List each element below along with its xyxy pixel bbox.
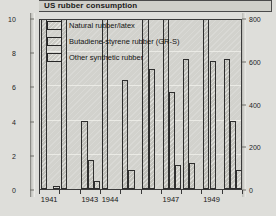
y-axis-right-tick-label: 0 — [249, 187, 253, 194]
y-axis-right-tick-mark — [242, 147, 246, 148]
bar — [128, 170, 134, 189]
bar — [149, 69, 155, 189]
y-axis-left-tick-mark — [30, 155, 34, 156]
y-axis-left-tick-label: 8 — [12, 50, 16, 57]
y-axis-right-tick-label: 600 — [249, 58, 261, 65]
y-axis-right-tick-mark — [242, 104, 246, 105]
y-axis-right-tick-mark — [242, 19, 246, 20]
legend-label: Other synthetic rubber — [69, 53, 143, 62]
x-axis-tick-mark — [39, 190, 40, 194]
x-axis-tick-mark — [201, 190, 202, 194]
legend-label: Butadiene-styrene rubber (GR-S) — [69, 37, 179, 46]
y-axis-left-tick-label: 4 — [12, 118, 16, 125]
chart-title: US rubber consumption — [44, 1, 137, 10]
bar — [189, 163, 195, 189]
legend-item: Natural rubber/latex — [47, 20, 179, 31]
x-axis-tick-mark — [120, 190, 121, 194]
y-axis-left-tick-label: 6 — [12, 84, 16, 91]
x-axis-tick-mark — [242, 190, 243, 194]
y-axis-left-tick-mark — [30, 87, 34, 88]
x-axis-tick-label: 1947 — [163, 195, 180, 204]
x-axis-tick-label: 1949 — [203, 195, 220, 204]
x-axis-tick-mark — [161, 190, 162, 194]
y-axis-left — [30, 13, 35, 197]
bar — [210, 61, 216, 189]
y-axis-left-tick-label: 0 — [12, 187, 16, 194]
legend-item: Other synthetic rubber — [47, 52, 179, 63]
legend-swatch — [47, 21, 62, 30]
x-axis-tick-mark — [59, 190, 60, 194]
bar — [53, 186, 59, 189]
x-axis-tick-label: 1943 — [81, 195, 98, 204]
chart-legend: Natural rubber/latexButadiene-styrene ru… — [47, 20, 179, 68]
y-axis-left-tick-mark — [30, 53, 34, 54]
x-axis-tick-mark — [181, 190, 182, 194]
x-axis-tick-mark — [141, 190, 142, 194]
y-axis-left-tick-label: 2 — [12, 152, 16, 159]
y-axis-left-tick-mark — [30, 19, 34, 20]
legend-label: Natural rubber/latex — [69, 21, 135, 30]
y-axis-left-tick-label: 10 — [8, 16, 16, 23]
bar — [236, 170, 242, 189]
y-axis-left-tick-mark — [30, 121, 34, 122]
chart-figure: US rubber consumption Long tons (thousan… — [0, 0, 276, 216]
x-axis-tick-label: 1944 — [102, 195, 119, 204]
bar — [94, 181, 100, 189]
y-axis-right-tick-label: 200 — [249, 144, 261, 151]
x-axis-tick-mark — [100, 190, 101, 194]
y-axis-right — [242, 13, 246, 197]
y-axis-right-tick-mark — [242, 61, 246, 62]
y-axis-right-tick-label: 400 — [249, 101, 261, 108]
y-axis-left-tick-mark — [30, 190, 34, 191]
legend-swatch — [47, 53, 62, 62]
y-axis-right-tick-label: 800 — [249, 16, 261, 23]
x-axis-tick-label: 1941 — [41, 195, 58, 204]
bar — [175, 165, 181, 189]
x-axis-tick-mark — [80, 190, 81, 194]
legend-swatch — [47, 37, 62, 46]
x-axis-tick-mark — [222, 190, 223, 194]
legend-item: Butadiene-styrene rubber (GR-S) — [47, 36, 179, 47]
